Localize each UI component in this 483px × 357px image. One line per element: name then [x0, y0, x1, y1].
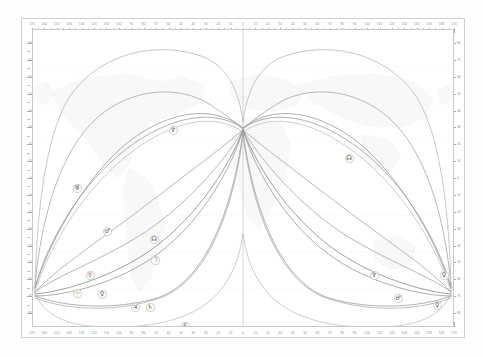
latitude-tick-label: 70 — [457, 294, 461, 298]
latitude-labels-right: 807060504030201001020304050607080 — [455, 29, 469, 327]
axis-tick — [27, 220, 30, 221]
planet-marker-venus-west[interactable]: ♀ — [98, 290, 107, 299]
axis-tick — [27, 68, 30, 69]
latitude-tick-label: 70 — [457, 58, 461, 62]
latitude-tick-label: 10 — [457, 159, 461, 163]
line-pluto-west — [33, 234, 243, 327]
line-moon-west — [35, 130, 243, 292]
axis-tick — [27, 254, 30, 255]
latitude-tick-label: 50 — [457, 260, 461, 264]
planetary-lines-layer — [33, 30, 453, 326]
axis-tick — [27, 305, 30, 306]
line-pluto-east — [243, 234, 453, 327]
latitude-tick-label: 60 — [457, 75, 461, 79]
latitude-tick-label: 40 — [457, 109, 461, 113]
axis-tick — [27, 119, 30, 120]
line-uranus-east — [243, 50, 451, 286]
line-node-east-a — [243, 117, 451, 288]
latitude-tick-label: 30 — [457, 125, 461, 129]
line-uranus-west — [35, 50, 243, 286]
axis-tick — [27, 203, 30, 204]
planet-marker-mars-east[interactable]: ♂ — [394, 294, 403, 303]
axis-tick — [27, 102, 30, 103]
axis-tick — [27, 153, 30, 154]
latitude-tick-label: 80 — [457, 41, 461, 45]
axis-tick — [27, 51, 30, 52]
latitude-tick-label: 10 — [457, 193, 461, 197]
axis-tick — [27, 237, 30, 238]
astrocartography-canvas: 1701601501401301201101009080706050403020… — [0, 0, 483, 357]
axis-tick — [27, 271, 30, 272]
axis-tick — [27, 288, 30, 289]
latitude-tick-label: 20 — [457, 210, 461, 214]
latitude-tick-label: 30 — [457, 227, 461, 231]
axis-tick — [27, 136, 30, 137]
latitude-tick-label: 60 — [457, 277, 461, 281]
planet-marker-uranus-west[interactable]: ♅ — [73, 184, 82, 193]
planet-marker-moon-west[interactable]: ☽ — [151, 256, 160, 265]
planet-marker-north-node-west[interactable]: ☊ — [150, 235, 159, 244]
axis-tick — [27, 170, 30, 171]
latitude-tick-label: 0 — [457, 176, 459, 180]
planet-marker-neptune-east[interactable]: ♆ — [370, 271, 379, 280]
planet-marker-north-node-east[interactable]: ☊ — [345, 154, 354, 163]
latitude-tick-label: 50 — [457, 92, 461, 96]
planet-marker-pluto-west[interactable]: ♇ — [181, 322, 190, 328]
planet-marker-venus-east[interactable]: ♀ — [433, 301, 442, 310]
planet-marker-neptune-west[interactable]: ♆ — [169, 126, 178, 135]
axis-tick — [27, 85, 30, 86]
latitude-tick-label: 40 — [457, 244, 461, 248]
latitude-tick-label: 80 — [457, 311, 461, 315]
axis-tick — [27, 186, 30, 187]
planet-marker-mercury-west[interactable]: ☿ — [86, 271, 95, 280]
line-node-west-a — [35, 117, 243, 288]
planet-marker-mars-west[interactable]: ♂ — [103, 227, 112, 236]
planet-marker-sun-west[interactable]: ☉ — [73, 289, 82, 298]
map-plot-area: ♆♅♂☊☽☿☉♀♃♄♇☊♇♄♃♆♀☿☉♂♀♅ — [32, 29, 454, 327]
planet-marker-venus-east[interactable]: ♀ — [440, 271, 449, 280]
planet-marker-saturn-west[interactable]: ♄ — [146, 303, 155, 312]
latitude-tick-label: 20 — [457, 142, 461, 146]
planet-marker-jupiter-west[interactable]: ♃ — [131, 303, 140, 312]
